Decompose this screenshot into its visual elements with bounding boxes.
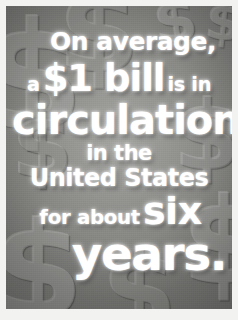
headline-line-for-about-six: for aboutsix	[12, 192, 226, 230]
poster-artwork: $ $ $ $ $ $ $ $ $ On average, a$1 billis…	[6, 6, 232, 309]
headline-line-years: years.	[12, 230, 232, 277]
headline-line-circulation: circulation	[12, 100, 226, 140]
headline-line-united-states: United States	[12, 166, 226, 190]
headline-line-on-average: On average,	[12, 29, 232, 54]
headline-line-a-dollar-bill-is-in: a$1 billis in	[12, 60, 226, 97]
headline-word-one-dollar-bill: $1 bill	[43, 57, 165, 100]
poster-card: $ $ $ $ $ $ $ $ $ On average, a$1 billis…	[0, 0, 238, 320]
headline-word-is-in: is in	[165, 73, 215, 96]
headline-block: On average, a$1 billis in circulation in…	[6, 6, 232, 309]
headline-line-in-the: in the	[12, 143, 226, 164]
headline-word-a: a	[24, 73, 43, 96]
